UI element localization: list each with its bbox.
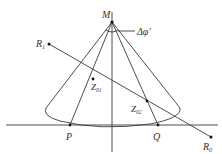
point-R1 <box>48 43 51 46</box>
label-Z02-sub: 02 <box>136 109 142 115</box>
point-M <box>110 20 113 23</box>
label-Q: Q <box>153 131 161 142</box>
label-Z01-sub: 01 <box>96 87 102 93</box>
cone-left-edge <box>46 22 112 108</box>
line-M-P <box>70 22 112 125</box>
point-P <box>69 124 72 127</box>
label-Z02: Z02 <box>131 104 142 115</box>
label-R0-sub: 0 <box>209 147 212 153</box>
label-R1-sub: 1 <box>42 44 45 50</box>
point-Z02 <box>146 100 149 103</box>
point-Z01 <box>92 78 95 81</box>
point-R0 <box>210 136 213 139</box>
point-Q <box>157 124 160 127</box>
label-Z01: Z01 <box>91 82 102 93</box>
label-R1-main: R <box>35 38 42 49</box>
label-delta-phi: Δφ' <box>136 26 151 37</box>
label-R0-main: R <box>202 141 209 152</box>
cone-diagram: M R1 R0 Z01 Z02 P Q Δφ' <box>0 0 222 154</box>
label-R0: R0 <box>202 141 212 153</box>
label-M: M <box>101 9 111 20</box>
label-P: P <box>65 131 72 142</box>
label-R1: R1 <box>35 38 45 50</box>
observation-line-R1-R0 <box>49 44 211 137</box>
cone-base-curve <box>45 108 180 127</box>
